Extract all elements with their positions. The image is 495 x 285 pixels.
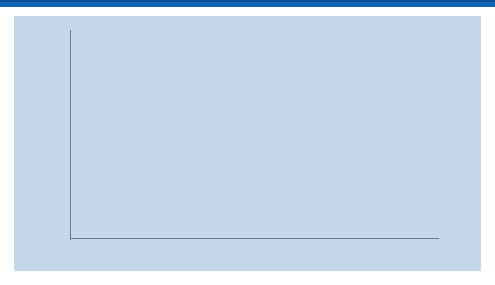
top-accent-rule	[0, 0, 495, 7]
series-label-latin-america	[314, 164, 434, 177]
x-axis-line	[70, 238, 439, 239]
top-accent-rule-highlight	[0, 0, 495, 2]
chart-panel	[14, 16, 481, 271]
chart-figure	[0, 0, 495, 285]
plot-area	[70, 32, 437, 238]
stacked-area-series	[70, 32, 437, 238]
